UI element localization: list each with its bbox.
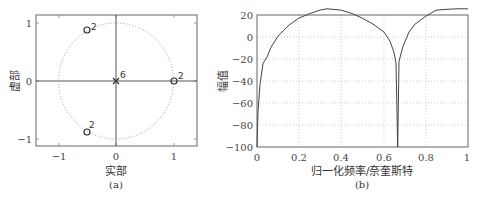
ytick-neg100: −100	[226, 142, 253, 153]
xtick-1: 1	[464, 152, 470, 163]
magnitude-response-plot: 0 0.2 0.4 0.6 0.8 1 20 0 −20 −40 −60 −80…	[217, 9, 470, 190]
magnitude-curve	[257, 9, 468, 147]
ytick-neg1: −1	[17, 134, 32, 145]
ytick-neg80: −80	[232, 120, 253, 131]
ytick-neg60: −60	[232, 98, 253, 109]
pole-zero-plot: 2 2 2 6 −1 0 1 1 0 −1 实部 虚部 (a)	[8, 15, 197, 190]
ytick-0: 0	[26, 76, 32, 87]
xtick-neg1: −1	[52, 151, 67, 162]
xtick-0: 0	[254, 152, 260, 163]
ytick-20: 20	[240, 10, 253, 21]
xtick-0.8: 0.8	[418, 152, 434, 163]
ytick-neg40: −40	[232, 76, 253, 87]
left-ylabel: 虚部	[8, 70, 22, 92]
right-ylabel: 幅值	[217, 70, 230, 92]
right-grid	[257, 15, 468, 147]
right-caption: (b)	[355, 179, 369, 190]
left-caption: (a)	[109, 179, 123, 190]
ytick-1: 1	[26, 18, 32, 29]
ytick-neg20: −20	[232, 54, 253, 65]
pole-multiplicity: 6	[120, 70, 126, 80]
xtick-0.4: 0.4	[333, 152, 349, 163]
zero-multiplicity-lower: 2	[89, 120, 95, 130]
xtick-1: 1	[171, 151, 177, 162]
ytick-0: 0	[247, 32, 253, 43]
zero-multiplicity-real: 2	[178, 71, 184, 81]
left-xlabel: 实部	[105, 164, 127, 178]
zero-multiplicity-upper: 2	[91, 22, 97, 32]
figure: 2 2 2 6 −1 0 1 1 0 −1 实部 虚部 (a) 0 0.2 0.…	[0, 0, 481, 202]
right-xlabel: 归一化频率/奈奎斯特	[311, 164, 414, 178]
xtick-0.6: 0.6	[376, 152, 392, 163]
xtick-0: 0	[113, 151, 119, 162]
xtick-0.2: 0.2	[291, 152, 307, 163]
